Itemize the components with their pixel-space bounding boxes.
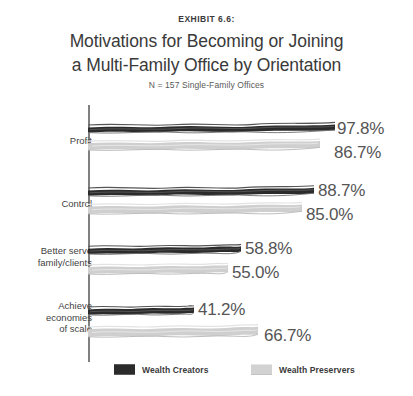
value-label-better-serve-creators: 58.8% — [245, 239, 292, 259]
category-label-control: Control — [2, 198, 92, 210]
legend-item-wealth-preservers[interactable]: Wealth Preservers — [251, 364, 355, 375]
legend-swatch-icon-preservers — [251, 364, 272, 375]
value-label-profit-creators: 97.8% — [337, 119, 384, 139]
bar-control-creators — [88, 181, 328, 199]
category-label-profit: Profit — [2, 135, 92, 147]
legend-item-wealth-creators[interactable]: Wealth Creators — [114, 364, 209, 375]
plot-area: Profit Control Better serve family/clien… — [0, 0, 413, 396]
category-label-line: Better serve — [41, 245, 92, 256]
bar-control-preservers — [88, 198, 316, 218]
bar-profit-creators — [88, 118, 348, 136]
value-label-profit-preservers: 86.7% — [334, 143, 381, 163]
value-label-better-serve-preservers: 55.0% — [232, 263, 279, 283]
category-label-better-serve: Better serve family/clients — [2, 245, 92, 268]
bar-better-serve-creators — [88, 239, 253, 257]
bar-economies-preservers — [88, 320, 273, 342]
category-label-line: family/clients — [38, 257, 92, 268]
bar-economies-creators — [88, 300, 206, 318]
category-label-economies: Achieve economies of scale — [2, 300, 92, 335]
category-label-line: economies — [46, 312, 92, 323]
legend-label-preservers: Wealth Preservers — [279, 365, 355, 375]
bar-profit-preservers — [88, 135, 332, 153]
chart-legend: Wealth Creators Wealth Preservers — [88, 364, 378, 384]
category-label-line: Achieve — [58, 300, 92, 311]
legend-swatch-icon-creators — [114, 364, 135, 375]
bar-better-serve-preservers — [88, 258, 240, 278]
value-label-economies-creators: 41.2% — [198, 300, 245, 320]
value-label-economies-preservers: 66.7% — [264, 326, 311, 346]
value-label-control-preservers: 85.0% — [306, 205, 353, 225]
legend-label-creators: Wealth Creators — [142, 365, 209, 375]
chart-container: EXHIBIT 6.6: Motivations for Becoming or… — [0, 0, 413, 396]
value-label-control-creators: 88.7% — [318, 181, 365, 201]
